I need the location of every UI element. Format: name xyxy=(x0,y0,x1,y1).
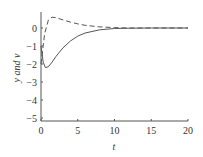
plot-lines xyxy=(41,17,188,67)
axes: 051015200−1−2−3−4−5 xyxy=(26,12,193,136)
x-tick-label: 20 xyxy=(183,125,193,136)
x-tick-label: 10 xyxy=(110,125,120,136)
chart: 051015200−1−2−3−4−5 t y and v xyxy=(0,0,203,157)
series-v xyxy=(41,17,188,64)
y-tick-label: −1 xyxy=(26,41,37,52)
x-axis-label: t xyxy=(113,141,116,152)
y-tick-label: −4 xyxy=(26,95,37,106)
x-tick-label: 0 xyxy=(39,125,44,136)
y-tick-label: −3 xyxy=(26,77,37,88)
y-tick-label: −5 xyxy=(26,113,37,124)
y-tick-label: 0 xyxy=(32,23,37,34)
y-tick-label: −2 xyxy=(26,59,37,70)
x-tick-label: 5 xyxy=(75,125,80,136)
x-tick-label: 15 xyxy=(146,125,156,136)
series-y xyxy=(41,28,188,68)
y-axis-label: y and v xyxy=(11,53,22,83)
